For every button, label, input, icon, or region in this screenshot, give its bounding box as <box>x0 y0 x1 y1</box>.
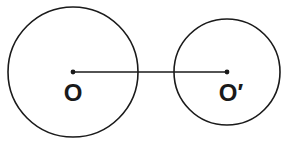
center-dot-o-prime <box>225 70 230 75</box>
center-dot-o <box>71 70 76 75</box>
label-o: O <box>64 79 83 106</box>
two-circles-diagram: O O′ <box>0 0 281 154</box>
label-o-prime: O′ <box>219 79 244 106</box>
